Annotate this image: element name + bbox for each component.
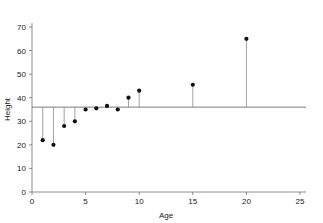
y-axis-title: Height [3,97,12,121]
y-tick-label: 70 [17,23,26,32]
x-tick-label: 5 [83,197,88,206]
x-tick-label: 25 [296,197,305,206]
chart-container: 010203040506070 0510152025 Age Height [0,0,323,223]
x-tick-label: 0 [30,197,35,206]
y-tick-label: 40 [17,94,26,103]
data-point-marker [94,106,98,110]
data-point-marker [244,37,248,41]
x-tick-label: 10 [135,197,144,206]
data-point-marker [116,107,120,111]
x-axis-title: Age [159,211,174,220]
data-point-marker [51,143,55,147]
data-point-marker [191,83,195,87]
plot-background [0,0,323,223]
data-point-marker [73,119,77,123]
data-point-marker [137,89,141,93]
data-point-marker [105,104,109,108]
y-tick-label: 10 [17,164,26,173]
data-point-marker [41,138,45,142]
y-tick-label: 0 [22,188,27,197]
y-tick-label: 30 [17,117,26,126]
data-point-marker [62,124,66,128]
y-tick-label: 50 [17,70,26,79]
data-point-marker [126,96,130,100]
scatter-plot: 010203040506070 0510152025 Age Height [0,0,323,223]
y-tick-label: 60 [17,47,26,56]
x-tick-label: 20 [242,197,251,206]
x-tick-label: 15 [188,197,197,206]
data-point-marker [84,107,88,111]
y-tick-label: 20 [17,141,26,150]
